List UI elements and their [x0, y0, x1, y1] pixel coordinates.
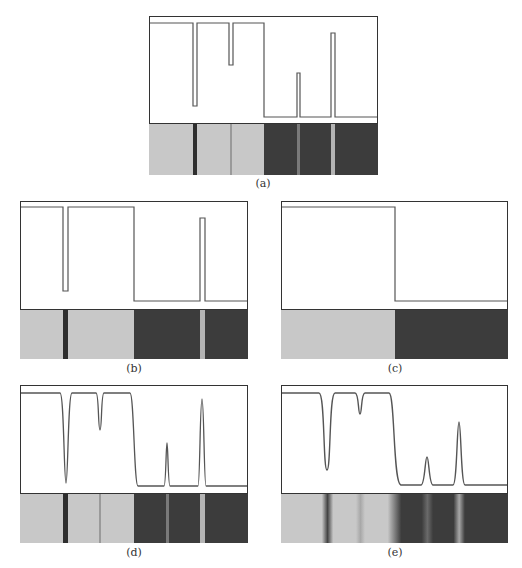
panel-c	[281, 201, 508, 359]
caption-d: (d)	[114, 546, 154, 559]
caption-e: (e)	[375, 546, 415, 559]
panel-b	[20, 201, 248, 359]
caption-c: (c)	[375, 362, 415, 375]
panel-c-graphic	[281, 201, 508, 359]
caption-b: (b)	[114, 362, 154, 375]
panel-a	[149, 16, 378, 175]
panel-b-graphic	[20, 201, 248, 359]
panel-d	[20, 385, 248, 543]
panel-e	[281, 385, 508, 543]
panel-d-graphic	[20, 385, 248, 543]
caption-a: (a)	[243, 177, 283, 190]
panel-a-graphic	[149, 16, 378, 175]
panel-e-graphic	[281, 385, 508, 543]
